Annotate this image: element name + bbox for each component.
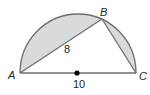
- semicircle-diagram: A B C 8 10: [0, 0, 150, 95]
- label-point-a: A: [7, 69, 15, 81]
- center-dot: [74, 70, 79, 75]
- shaded-segment-ab: [20, 14, 102, 73]
- label-point-c: C: [139, 70, 147, 82]
- chord-bc: [102, 19, 136, 73]
- label-diameter-length: 10: [73, 78, 85, 90]
- label-point-b: B: [100, 6, 107, 18]
- label-ab-length: 8: [64, 43, 70, 55]
